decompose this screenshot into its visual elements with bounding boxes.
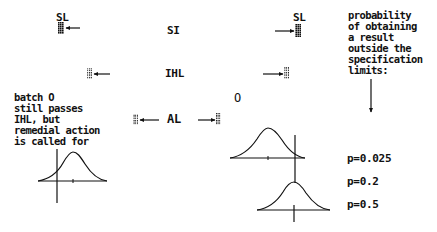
- ihl-label: IHL: [165, 68, 184, 79]
- ihl-markers: [87, 67, 289, 79]
- sl-right-marker-group: [275, 24, 301, 37]
- probability-label-3: p=0.5: [347, 199, 379, 210]
- batch-note: batch O still passes IHL, but remedial a…: [14, 92, 100, 147]
- al-right-marker-icon: [216, 113, 221, 125]
- al-label: AL: [167, 114, 181, 125]
- sl-right-label: SL: [293, 12, 306, 23]
- probability-note: probability of obtaining a result outsid…: [348, 10, 422, 76]
- sl-right-marker-icon: [295, 24, 301, 37]
- al-left-marker-icon: [133, 114, 138, 125]
- ihl-right-marker-icon: [284, 67, 289, 79]
- lower-distribution-curve: [257, 182, 330, 222]
- si-label: SI: [167, 25, 180, 36]
- ihl-left-marker-icon: [87, 68, 92, 79]
- batch-marker-label: O: [234, 93, 241, 104]
- left-distribution-curve: [38, 149, 107, 203]
- probability-label-2: p=0.2: [347, 176, 379, 187]
- probability-label-1: p=0.025: [347, 153, 391, 164]
- upper-distribution-curve: [230, 128, 305, 160]
- sl-left-label: SL: [56, 12, 69, 23]
